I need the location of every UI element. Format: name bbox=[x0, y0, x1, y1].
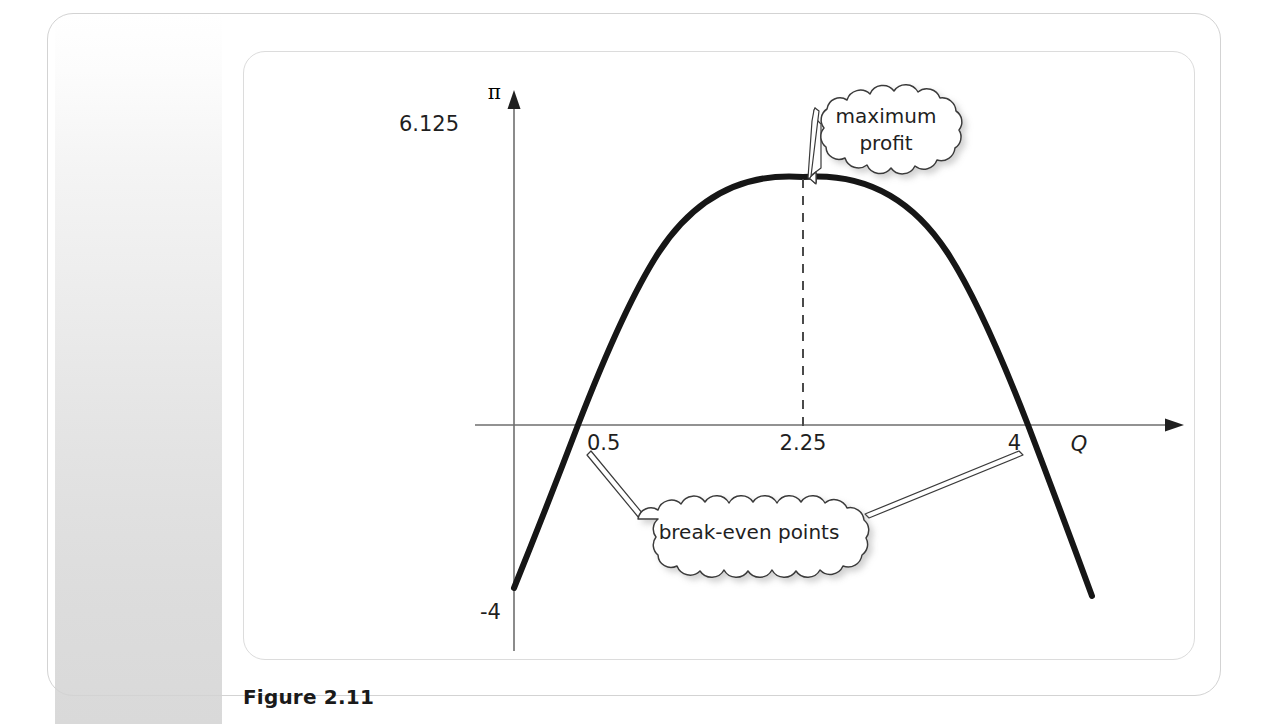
maximum-profit-label-line1: maximum bbox=[836, 104, 937, 128]
maximum-profit-bubble[interactable] bbox=[821, 85, 962, 174]
break-even-label: break-even points bbox=[659, 520, 840, 544]
chart-canvas: 6.125 -4 π 0.5 2.25 4 Q bbox=[243, 51, 1195, 660]
maximum-profit-label-line2: profit bbox=[859, 131, 912, 155]
y-axis-title: π bbox=[488, 80, 501, 104]
annotation-break-even-points[interactable]: break-even points bbox=[587, 451, 1023, 577]
y-axis-arrowhead bbox=[508, 90, 521, 109]
y-tick-label-min: -4 bbox=[480, 600, 501, 624]
page-root: 6.125 -4 π 0.5 2.25 4 Q bbox=[0, 0, 1269, 724]
break-even-left-pointer bbox=[587, 451, 643, 518]
y-axis bbox=[508, 90, 521, 651]
y-tick-label-max: 6.125 bbox=[399, 112, 459, 136]
x-axis-title: Q bbox=[1071, 432, 1088, 456]
break-even-right-pointer bbox=[865, 451, 1023, 518]
annotation-maximum-profit[interactable]: maximum profit bbox=[808, 85, 962, 184]
figure-caption: Figure 2.11 bbox=[243, 685, 374, 709]
profit-parabola-chart: 6.125 -4 π 0.5 2.25 4 Q bbox=[243, 51, 1195, 660]
x-axis-arrowhead bbox=[1165, 419, 1184, 432]
x-tick-label-vertex: 2.25 bbox=[780, 431, 827, 455]
